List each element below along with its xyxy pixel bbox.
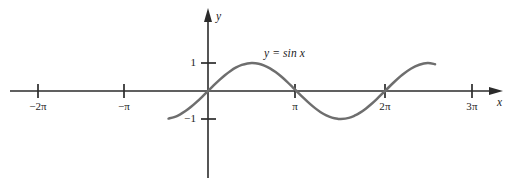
x-tick-label-2pi: 2π [373, 101, 397, 112]
y-tick-label-1: 1 [180, 57, 196, 68]
plot-canvas [0, 0, 513, 187]
x-tick-label-pi: π [285, 101, 305, 112]
y-axis-label: y [216, 11, 221, 23]
sine-graph-figure: −2π −π π 2π 3π 1 −1 y x y = sin x [0, 0, 513, 187]
y-axis-arrow-icon [204, 8, 212, 22]
x-tick-label--2pi: −2π [24, 101, 52, 112]
curve-equation-label: y = sin x [264, 48, 305, 60]
y-tick-label--1: −1 [176, 113, 196, 124]
x-tick-label--pi: −π [111, 101, 137, 112]
x-tick-label-3pi: 3π [460, 101, 484, 112]
x-axis-label: x [497, 97, 502, 109]
x-axis-arrow-icon [489, 87, 503, 95]
